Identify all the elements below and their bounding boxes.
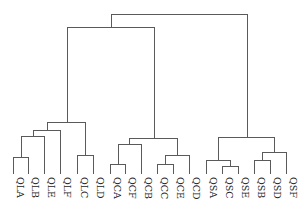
leaf-label: QSB [256,177,267,198]
merge-link [255,161,271,175]
leaf-label: QCA [112,177,123,199]
dendrogram: QLAQLBQLEQLFQLCQLDQCAQCFQCBQCCQCEQCDQSAQ… [0,0,304,210]
merge-link [112,15,248,138]
merge-link [68,28,155,139]
leaf-label: QCC [159,177,170,199]
leaf-label: QSD [272,177,283,199]
merge-link [78,156,94,175]
leaf-label: QCD [191,177,202,200]
leaf-label: QLD [95,177,106,199]
leaf-label: QLF [62,177,73,198]
merge-link [207,161,231,175]
leaf-label: QSF [288,177,299,198]
merge-link [263,153,287,175]
merge-link [223,167,239,175]
leaf-label: QCE [175,177,186,199]
dendrogram-links [14,15,287,175]
leaf-label: QSA [208,177,219,198]
leaf-label: QCB [143,177,154,199]
merge-link [22,137,45,175]
leaf-labels: QLAQLBQLEQLFQLCQLDQCAQCFQCBQCCQCEQCDQSAQ… [15,177,299,200]
merge-link [34,131,61,175]
leaf-label: QSE [240,177,251,198]
merge-link [14,158,29,175]
merge-link [119,145,142,175]
leaf-label: QLB [30,177,41,198]
leaf-label: QLC [79,177,90,198]
leaf-label: QLE [46,177,57,198]
leaf-label: QSC [224,177,235,199]
merge-link [130,139,178,156]
merge-link [219,138,275,161]
merge-link [48,123,86,156]
leaf-label: QCF [127,177,138,199]
leaf-label: QLA [15,177,26,198]
merge-link [158,165,174,175]
merge-link [111,165,126,175]
